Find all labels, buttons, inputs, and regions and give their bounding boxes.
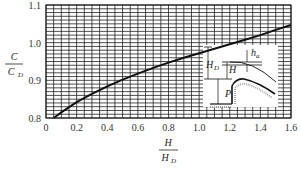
y-tick-label: 0.9 <box>29 75 42 86</box>
y-tick-label: 0.8 <box>29 113 42 124</box>
discharge-coefficient-chart: 00.20.40.60.81.01.21.41.6 0.80.91.01.1 C… <box>0 0 301 169</box>
y-tick-label: 1.1 <box>29 0 42 11</box>
x-tick-label: 1.2 <box>224 122 237 133</box>
inset-label-h: H <box>228 64 237 75</box>
y-label-denominator: C <box>8 66 15 77</box>
x-label-subscript: D <box>170 157 176 165</box>
x-tick-label: 1.4 <box>254 122 267 133</box>
inset-label-ha-sub: a <box>256 52 260 60</box>
x-tick-label: 0.8 <box>162 122 175 133</box>
x-axis-label: H H D <box>159 137 178 165</box>
spillway-inset <box>203 45 278 107</box>
x-tick-label: 1.6 <box>285 122 298 133</box>
y-axis-label: C C D <box>5 51 23 79</box>
inset-label-hd: H <box>205 59 214 70</box>
inset-label-p: P <box>224 88 231 99</box>
x-tick-label: 0 <box>44 122 49 133</box>
y-label-subscript: D <box>17 71 23 79</box>
y-label-numerator: C <box>11 51 18 62</box>
x-label-numerator: H <box>163 137 172 148</box>
x-tick-label: 0.2 <box>70 122 83 133</box>
x-tick-label: 0.4 <box>101 122 114 133</box>
x-tick-labels: 00.20.40.60.81.01.21.41.6 <box>44 122 298 133</box>
x-tick-label: 0.6 <box>132 122 145 133</box>
inset-label-hd-sub: D <box>213 64 219 72</box>
x-label-denominator: H <box>160 152 169 163</box>
y-tick-labels: 0.80.91.01.1 <box>29 0 42 124</box>
y-tick-label: 1.0 <box>29 38 42 49</box>
x-tick-label: 1.0 <box>193 122 206 133</box>
